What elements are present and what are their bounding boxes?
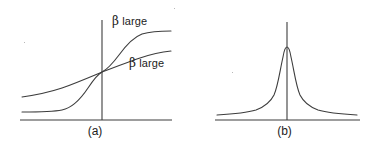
- figure-container: β large β large (a) (b): [0, 0, 379, 147]
- panel-a-steep-curve-label: β large: [112, 14, 147, 28]
- beta-symbol: β: [129, 56, 136, 70]
- beta-large-text: large: [136, 57, 164, 69]
- beta-large-text: large: [119, 15, 147, 27]
- panel-a-shallow-curve-label: β large: [129, 56, 164, 70]
- panel-b-caption: (b): [190, 124, 379, 138]
- panel-a: β large β large (a): [0, 0, 190, 147]
- beta-symbol: β: [112, 14, 119, 28]
- panel-a-caption: (a): [0, 124, 190, 138]
- panel-a-steep-sigmoid-curve: [22, 31, 171, 112]
- panel-b: (b): [190, 0, 379, 147]
